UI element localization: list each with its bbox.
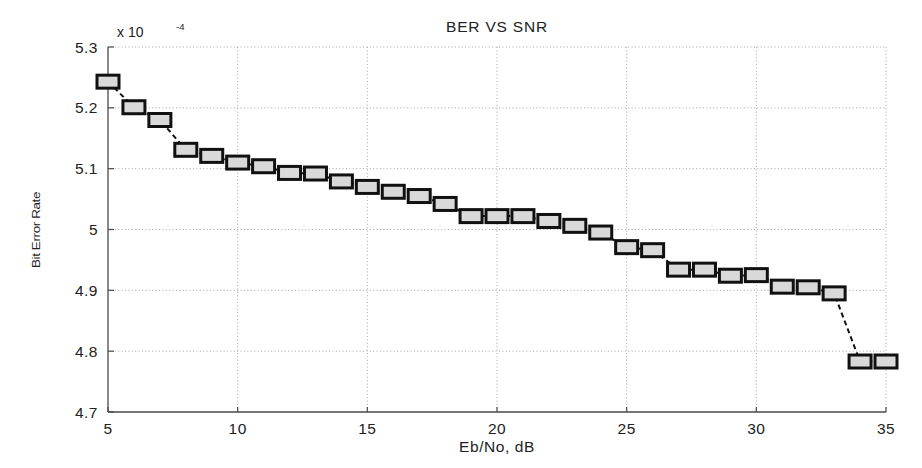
x-tick-label: 20 <box>488 420 506 437</box>
x-tick-label: 5 <box>103 420 112 437</box>
data-point-marker <box>304 167 326 180</box>
data-point-marker <box>227 156 249 169</box>
x-tick-label: 25 <box>618 420 636 437</box>
y-tick-label: 4.7 <box>75 404 98 421</box>
data-point-marker <box>175 143 197 156</box>
data-point-marker <box>564 219 586 232</box>
y-tick-label: 4.9 <box>75 282 98 299</box>
y-tick-label: 5 <box>89 221 98 238</box>
data-point-marker <box>253 160 275 173</box>
y-axis-title: Bit Error Rate <box>30 191 42 268</box>
data-point-marker <box>356 180 378 193</box>
data-point-marker <box>642 244 664 257</box>
x-tick-label: 30 <box>747 420 765 437</box>
x-axis-title: Eb/No, dB <box>459 438 535 455</box>
data-point-marker <box>875 355 897 368</box>
data-point-marker <box>201 149 223 162</box>
y-tick-label: 4.8 <box>75 343 98 360</box>
data-point-marker <box>616 241 638 254</box>
data-point-marker <box>460 210 482 223</box>
data-point-marker <box>719 269 741 282</box>
data-point-marker <box>823 287 845 300</box>
data-point-marker <box>771 280 793 293</box>
data-point-marker <box>486 210 508 223</box>
chart-title: BER VS SNR <box>446 18 548 35</box>
ber-vs-snr-chart: BER VS SNR x 10 -4 5101520253035 4.74.84… <box>0 0 922 468</box>
data-point-marker <box>330 175 352 188</box>
figure-canvas: BER VS SNR x 10 -4 5101520253035 4.74.84… <box>0 0 922 468</box>
data-point-marker <box>123 101 145 114</box>
data-point-marker <box>849 355 871 368</box>
x-tick-label: 15 <box>358 420 376 437</box>
y-tick-label: 5.3 <box>75 39 98 56</box>
data-point-marker <box>382 185 404 198</box>
data-point-marker <box>512 210 534 223</box>
data-point-marker <box>279 166 301 179</box>
data-point-marker <box>538 214 560 227</box>
data-point-marker <box>745 269 767 282</box>
data-point-marker <box>97 75 119 88</box>
data-point-marker <box>668 263 690 276</box>
y-tick-label: 5.2 <box>75 99 98 116</box>
data-point-marker <box>693 263 715 276</box>
y-exponent-base: x 10 <box>117 24 144 40</box>
data-point-marker <box>797 281 819 294</box>
y-exponent-power: -4 <box>176 21 184 32</box>
data-point-marker <box>434 197 456 210</box>
x-tick-label: 10 <box>229 420 247 437</box>
figure-background <box>0 0 922 468</box>
y-tick-label: 5.1 <box>75 160 98 177</box>
data-point-marker <box>149 114 171 127</box>
x-tick-label: 35 <box>877 420 895 437</box>
data-point-marker <box>408 190 430 203</box>
data-point-marker <box>590 226 612 239</box>
